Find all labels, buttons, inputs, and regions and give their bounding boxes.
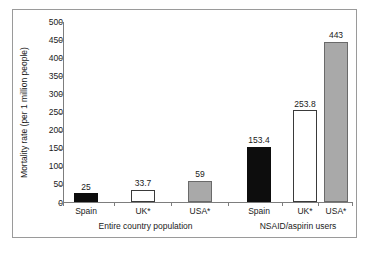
x-axis-line <box>63 202 353 203</box>
y-tick-mark-50 <box>58 185 63 186</box>
bar-group2-uk[interactable] <box>293 110 317 202</box>
x-tick-mark-1 <box>114 202 115 206</box>
x-category-group1-spain: Spain <box>66 206 106 216</box>
bar-value-group1-uk: 33.7 <box>123 179 163 188</box>
bar-value-group2-spain: 153.4 <box>235 136 283 145</box>
y-tick-mark-500 <box>58 22 63 23</box>
x-category-group1-uk: UK* <box>123 206 163 216</box>
plot-area: Mortality rate (per 1 million people) 50… <box>0 0 387 256</box>
group-label-nsaid-aspirin-users: NSAID/aspirin users <box>238 221 358 231</box>
bar-group1-usa[interactable] <box>188 181 212 202</box>
bar-group1-uk[interactable] <box>131 190 155 202</box>
y-tick-mark-300 <box>58 94 63 95</box>
bar-value-group2-uk: 253.8 <box>281 100 329 109</box>
x-category-group1-usa: USA* <box>180 206 220 216</box>
y-tick-mark-200 <box>58 131 63 132</box>
bar-group2-spain[interactable] <box>247 147 271 203</box>
x-tick-mark-2 <box>171 202 172 206</box>
y-tick-mark-150 <box>58 149 63 150</box>
bar-value-group1-usa: 59 <box>180 170 220 179</box>
bar-value-group2-usa: 443 <box>316 31 356 40</box>
x-category-group2-usa: USA* <box>316 206 356 216</box>
x-category-group2-spain: Spain <box>239 206 279 216</box>
y-tick-mark-450 <box>58 40 63 41</box>
y-tick-mark-400 <box>58 58 63 59</box>
y-tick-mark-100 <box>58 167 63 168</box>
y-axis-line <box>63 22 64 203</box>
x-tick-mark-3 <box>228 202 229 206</box>
bar-group2-usa[interactable] <box>324 42 348 202</box>
bar-value-group1-spain: 25 <box>66 183 106 192</box>
chart-figure: Mortality rate (per 1 million people) 50… <box>0 0 387 256</box>
x-tick-mark-4 <box>282 202 283 206</box>
x-tick-mark-0 <box>63 202 64 206</box>
bar-group1-spain[interactable] <box>74 193 98 202</box>
y-tick-mark-250 <box>58 113 63 114</box>
group-label-entire-country-population: Entire country population <box>63 221 228 231</box>
y-tick-mark-350 <box>58 76 63 77</box>
